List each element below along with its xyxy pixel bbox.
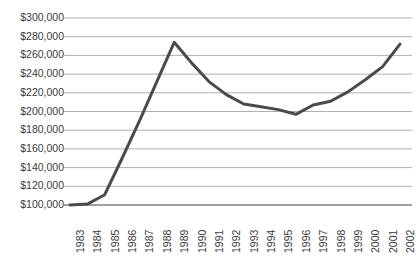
x-axis-tick-label: 2002 [405,230,416,253]
x-axis-tick-label: 1998 [336,230,347,253]
x-axis-tick-label: 1983 [75,230,86,253]
x-axis-tick-label: 2001 [388,230,399,253]
gridlines [64,18,412,205]
x-axis-tick-label: 1990 [197,230,208,253]
x-axis-tick-label: 1996 [301,230,312,253]
x-axis-tick-label: 1991 [214,230,225,253]
x-axis-tick-label: 1995 [283,230,294,253]
x-axis-tick-label: 1985 [110,230,121,253]
x-axis-tick-label: 1987 [144,230,155,253]
x-axis-tick-label: 1986 [127,230,138,253]
x-axis-tick-label: 1992 [231,230,242,253]
series-line [70,42,400,205]
x-axis-tick-label: 1989 [179,230,190,253]
x-axis-tick-label: 1994 [266,230,277,253]
x-axis-tick-label: 1984 [92,230,103,253]
x-axis-tick-label: 2000 [370,230,381,253]
data-series [70,42,400,205]
x-axis-tick-label: 1997 [318,230,329,253]
x-axis-tick-label: 1988 [162,230,173,253]
x-axis-tick-label: 1999 [353,230,364,253]
x-axis-tick-label: 1993 [249,230,260,253]
